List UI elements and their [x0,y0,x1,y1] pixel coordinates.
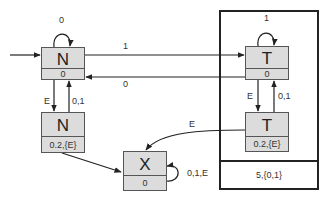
label-t-down: E [247,91,253,101]
label-t-self: 1 [264,13,269,23]
state-n-bottom-name: N [42,113,84,138]
state-x-name: X [124,152,166,177]
label-t-up: 0,1 [278,91,291,101]
label-n-down: E [44,96,50,106]
state-n-top-value: 0 [42,68,84,79]
state-x-value: 0 [124,175,166,190]
state-t-top-value: 0 [246,68,288,79]
label-t-bottom-to-x: E [189,119,195,129]
state-n-bottom[interactable]: N 0.2,{E} [41,112,85,153]
state-n-bottom-value: 0.2,{E} [42,136,84,152]
x-self-loop [166,166,178,181]
label-n-self: 0 [59,15,64,25]
state-n-top[interactable]: N 0 [41,47,85,80]
state-t-top[interactable]: T 0 [245,46,289,80]
label-n-up: 0,1 [72,96,85,106]
group-label: 5,{0,1} [221,160,317,188]
label-x-self: 0,1,E [187,168,208,178]
state-x[interactable]: X 0 [123,151,167,191]
n-self-loop [54,34,70,47]
label-t-to-n: 0 [123,79,128,89]
group-box: 5,{0,1} [219,10,319,190]
state-t-bottom-value: 0.2,{E} [246,136,288,151]
state-t-bottom-name: T [246,113,288,138]
state-t-bottom[interactable]: T 0.2,{E} [245,112,289,152]
edge-n-bottom-to-x [62,153,121,172]
label-n-to-t: 1 [123,41,128,51]
